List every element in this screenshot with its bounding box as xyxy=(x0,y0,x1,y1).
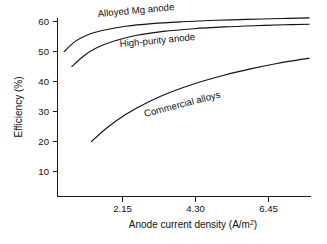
y-axis-tick-labels: 60 50 40 30 20 10 xyxy=(38,16,49,177)
series-labels-group: Alloyed Mg anode High-purity anode Comme… xyxy=(97,1,221,119)
curve-high-purity-anode xyxy=(72,24,309,66)
series-label-commercial-alloys: Commercial alloys xyxy=(143,89,222,119)
y-axis-title: Efficiency (%) xyxy=(13,77,24,138)
y-tick-label-60: 60 xyxy=(38,16,49,27)
series-label-alloyed-mg-anode: Alloyed Mg anode xyxy=(97,1,174,19)
series-label-high-purity-anode: High-purity anode xyxy=(119,31,195,49)
y-tick-label-10: 10 xyxy=(38,166,49,177)
y-tick-label-50: 50 xyxy=(38,46,49,57)
y-axis-ticks xyxy=(53,22,58,172)
x-tick-label-2-15: 2.15 xyxy=(113,203,132,214)
y-tick-label-40: 40 xyxy=(38,76,49,87)
x-tick-label-4-30: 4.30 xyxy=(186,203,205,214)
chart-figure: 60 50 40 30 20 10 2.15 4.30 6.45 Anode c… xyxy=(0,0,327,244)
x-axis-ticks xyxy=(123,197,269,202)
x-axis-tick-labels: 2.15 4.30 6.45 xyxy=(113,203,278,214)
x-axis-title-main: Anode current density (A/m xyxy=(129,219,250,230)
y-tick-label-20: 20 xyxy=(38,136,49,147)
x-axis-title-tail: ) xyxy=(254,219,257,230)
x-tick-label-6-45: 6.45 xyxy=(259,203,278,214)
line-chart: 60 50 40 30 20 10 2.15 4.30 6.45 Anode c… xyxy=(0,0,327,244)
x-axis-title: Anode current density (A/m2) xyxy=(129,219,257,231)
y-tick-label-30: 30 xyxy=(38,106,49,117)
